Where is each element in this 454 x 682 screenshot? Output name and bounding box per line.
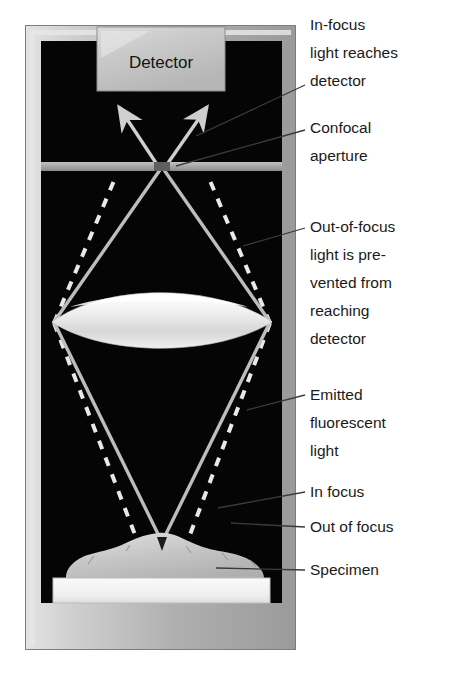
annotation-labels: In-focus light reaches detector Confocal…	[310, 16, 398, 578]
label-specimen: Specimen	[310, 561, 379, 578]
confocal-aperture[interactable]	[41, 162, 282, 171]
label-line: light is pre-	[310, 246, 386, 263]
label-line: reaching	[310, 302, 369, 319]
label-line: Out of focus	[310, 518, 394, 535]
detector-label: Detector	[129, 53, 194, 72]
aperture-plate-left[interactable]	[41, 162, 154, 171]
detector[interactable]: Detector	[97, 27, 225, 91]
label-line: vented from	[310, 274, 392, 291]
label-out-of-focus-prevented: Out-of-focus light is pre- vented from r…	[310, 218, 396, 347]
label-line: detector	[310, 72, 366, 89]
label-emitted-fluorescent-light: Emitted fluorescent light	[310, 386, 387, 459]
label-out-of-focus: Out of focus	[310, 518, 394, 535]
diagram-canvas: Detector	[0, 0, 454, 682]
confocal-microscope-figure: Detector	[0, 0, 454, 682]
label-line: Specimen	[310, 561, 379, 578]
label-in-focus-reaches-detector: In-focus light reaches detector	[310, 16, 398, 89]
label-line: In-focus	[310, 16, 365, 33]
label-line: Confocal	[310, 119, 371, 136]
microscope-slide	[53, 578, 270, 603]
label-in-focus: In focus	[310, 483, 365, 500]
label-line: fluorescent	[310, 414, 387, 431]
label-confocal-aperture: Confocal aperture	[310, 119, 371, 164]
label-line: Out-of-focus	[310, 218, 396, 235]
label-line: light	[310, 442, 339, 459]
label-line: detector	[310, 330, 366, 347]
label-line: aperture	[310, 147, 368, 164]
label-line: light reaches	[310, 44, 398, 61]
aperture-pinhole[interactable]	[154, 162, 170, 171]
label-line: In focus	[310, 483, 365, 500]
label-line: Emitted	[310, 386, 363, 403]
